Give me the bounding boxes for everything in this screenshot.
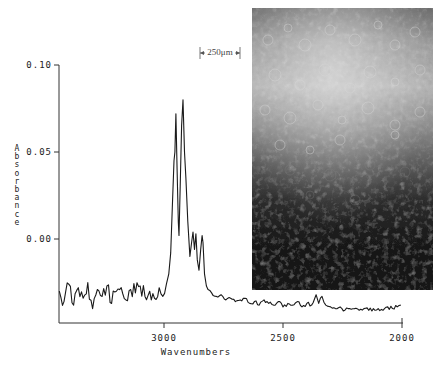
y-axis-title-char: e [15,218,20,227]
micrograph-inset [252,8,433,290]
x-tick-3000: 3000 [151,333,177,343]
y-tick-0.10: 0.10 [26,60,52,70]
scale-bar: 250μm [200,47,240,59]
x-tick-2500: 2500 [270,333,296,343]
spectrum-chart: 250μm 0.10 0.05 0.00 3000 2500 2000 Wave… [0,0,447,367]
y-axis-title: Absorbance [15,144,20,227]
x-tick-2000: 2000 [389,333,415,343]
scale-bar-label: 250μm [207,47,232,57]
x-axis-title: Wavenumbers [161,347,232,357]
y-tick-0.05: 0.05 [26,147,52,157]
y-tick-0.00: 0.00 [26,234,52,244]
